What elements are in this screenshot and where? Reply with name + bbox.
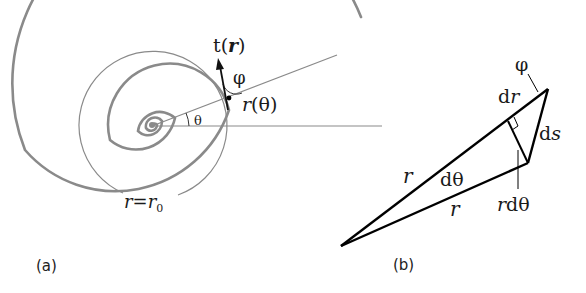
tangent-label: t(r) [213,34,246,56]
phi-leader-line [528,74,538,92]
panel-a-label: (a) [36,257,57,275]
log-spiral [12,0,361,191]
phi-label-a: φ [233,67,246,88]
r-theta-label: r(θ) [242,93,277,115]
r-lower-label: r [450,197,461,221]
panel-b-label: (b) [393,256,414,274]
panel-b: φ dr ds r dθ r rdθ (b) [341,53,561,274]
right-angle-marker [512,117,518,130]
panel-a: t(r) φ r(θ) θ r=r0 (a) [12,0,382,275]
r-upper-label: r [403,164,414,188]
tangent-arrowhead-icon [216,58,224,70]
dr-label: dr [498,85,521,107]
phi-label-b: φ [515,53,528,75]
figure-canvas: t(r) φ r(θ) θ r=r0 (a) φ dr ds r dθ r rd… [0,0,586,293]
theta-arc [186,113,189,126]
dtheta-label: dθ [440,168,464,190]
spiral-point [227,96,232,101]
rdtheta-label: rdθ [497,193,530,215]
r-equals-r0-label: r=r0 [124,191,163,215]
ds-label: ds [539,122,561,144]
theta-label: θ [194,113,202,128]
radial-line [152,55,337,126]
